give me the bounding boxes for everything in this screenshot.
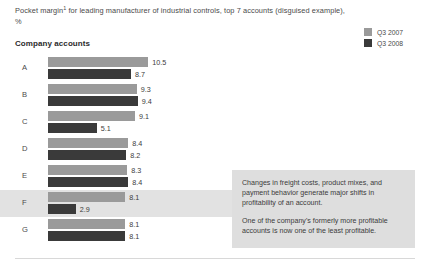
bar-c-q3-2008	[48, 123, 97, 133]
bar-value-label: 8.7	[135, 70, 145, 79]
legend-swatch-q3-2008-icon	[364, 39, 372, 47]
axis-group-label: Company accounts	[15, 39, 90, 48]
legend-label-q3-2007: Q3 2007	[377, 29, 403, 36]
bar-value-label: 5.1	[101, 124, 111, 133]
chart-row-a: A10.58.7	[0, 55, 429, 82]
bar-value-label: 8.3	[131, 166, 141, 175]
bar-f-q3-2007	[48, 192, 125, 202]
page-title-text-pre: Pocket margin	[15, 6, 63, 15]
bar-value-label: 9.4	[142, 97, 152, 106]
bar-b-q3-2007	[48, 84, 137, 94]
bar-g-q3-2007	[48, 219, 125, 229]
category-label-b: B	[22, 90, 27, 99]
category-label-g: G	[22, 225, 28, 234]
bar-a-q3-2007	[48, 57, 148, 67]
bar-e-q3-2007	[48, 165, 127, 175]
category-label-f: F	[22, 198, 27, 207]
page-title-text-post: for leading manufacturer of industrial c…	[66, 6, 273, 15]
category-label-a: A	[22, 63, 27, 72]
bar-value-label: 8.4	[132, 178, 142, 187]
bar-b-q3-2008	[48, 96, 138, 106]
chart-row-c: C9.15.1	[0, 109, 429, 136]
bar-value-label: 2.9	[80, 205, 90, 214]
category-label-d: D	[22, 144, 27, 153]
bar-value-label: 8.1	[129, 220, 139, 229]
bar-value-label: 8.1	[129, 193, 139, 202]
legend-item-q3-2008: Q3 2008	[364, 39, 403, 47]
bar-e-q3-2008	[48, 177, 128, 187]
bar-value-label: 8.1	[129, 232, 139, 241]
bar-value-label: 8.2	[130, 151, 140, 160]
bar-value-label: 9.1	[139, 112, 149, 121]
bar-value-label: 9.3	[141, 85, 151, 94]
footer-divider	[15, 258, 415, 259]
callout-paragraph-1: Changes in freight costs, product mixes,…	[242, 178, 405, 208]
legend-swatch-q3-2007-icon	[364, 28, 372, 36]
bar-g-q3-2008	[48, 231, 125, 241]
bar-c-q3-2007	[48, 111, 135, 121]
chart-row-b: B9.39.4	[0, 82, 429, 109]
category-label-e: E	[22, 171, 27, 180]
callout-annotation-box: Changes in freight costs, product mixes,…	[232, 170, 415, 248]
bar-value-label: 8.4	[132, 139, 142, 148]
page-title: Pocket margin1 for leading manufacturer …	[15, 6, 345, 27]
bar-d-q3-2008	[48, 150, 126, 160]
legend-item-q3-2007: Q3 2007	[364, 28, 403, 36]
bar-d-q3-2007	[48, 138, 128, 148]
bar-f-q3-2008	[48, 204, 76, 214]
bar-a-q3-2008	[48, 69, 131, 79]
callout-paragraph-2: One of the company's formerly more profi…	[242, 216, 405, 236]
legend-label-q3-2008: Q3 2008	[377, 40, 403, 47]
chart-row-d: D8.48.2	[0, 136, 429, 163]
chart-legend: Q3 2007 Q3 2008	[364, 28, 403, 47]
bar-value-label: 10.5	[152, 58, 166, 67]
category-label-c: C	[22, 117, 27, 126]
